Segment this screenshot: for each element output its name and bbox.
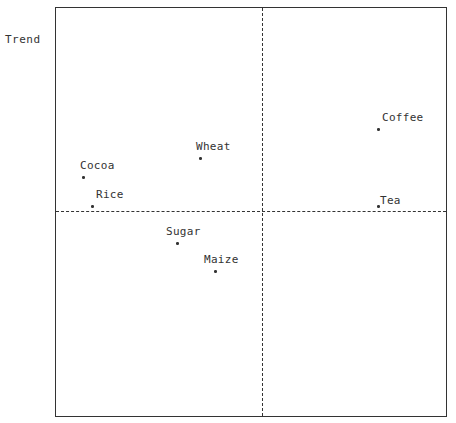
point-marker-icon	[91, 205, 94, 208]
horizontal-quadrant-divider	[56, 211, 446, 212]
point-marker-icon	[176, 242, 179, 245]
y-axis-label: Trend	[5, 33, 41, 46]
point-marker-icon	[377, 128, 380, 131]
point-label: Coffee	[382, 111, 424, 124]
point-marker-icon	[82, 176, 85, 179]
vertical-quadrant-divider	[262, 8, 263, 416]
point-marker-icon	[199, 157, 202, 160]
point-marker-icon	[214, 270, 217, 273]
point-label: Sugar	[166, 225, 201, 238]
point-label: Rice	[96, 188, 124, 201]
point-label: Cocoa	[80, 159, 115, 172]
plot-frame: CocoaRiceWheatSugarMaizeCoffeeTea	[55, 7, 447, 417]
point-label: Tea	[380, 194, 401, 207]
point-label: Maize	[204, 253, 239, 266]
point-label: Wheat	[196, 140, 231, 153]
